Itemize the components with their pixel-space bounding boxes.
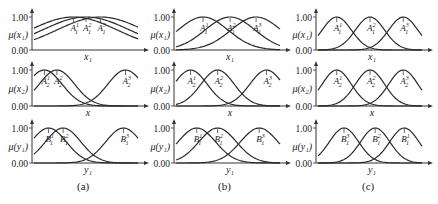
y-axis-arrow-icon — [30, 119, 34, 124]
y-tick-label-max: 1.00 — [11, 124, 28, 134]
y-tick-label-max: 1.00 — [11, 66, 28, 76]
x-axis-label: y₁ — [367, 164, 376, 175]
y-axis-label: μ(x₁) — [149, 29, 170, 41]
y-tick-label-max: 1.00 — [295, 66, 312, 76]
x-axis-label: y₁ — [225, 164, 234, 175]
y-tick-label-min: 0.00 — [11, 46, 28, 56]
curve-label: B21 — [372, 133, 381, 146]
y-axis-arrow-icon — [30, 61, 34, 66]
y-axis-arrow-icon — [314, 8, 318, 13]
curve-label: A12 — [187, 75, 197, 88]
y-axis-label: μ(x₁) — [291, 29, 312, 41]
y-tick-label-max: 1.00 — [153, 66, 170, 76]
curve-label: A11 — [333, 22, 343, 35]
x-axis-arrow-icon — [144, 104, 149, 108]
x-axis-arrow-icon — [286, 48, 291, 52]
curve-label: B31 — [256, 133, 265, 146]
x-axis-arrow-icon — [144, 48, 149, 52]
y-tick-label-max: 1.00 — [295, 124, 312, 134]
x-axis-arrow-icon — [428, 48, 433, 52]
y-axis-label: μ(y₁) — [149, 141, 170, 153]
curve-label: A21 — [82, 22, 92, 35]
y-axis-arrow-icon — [30, 8, 34, 13]
curve-label: B11 — [401, 133, 410, 146]
curve-label: A31 — [97, 22, 107, 35]
x-axis-label: x₁ — [225, 51, 234, 62]
y-tick-label-max: 1.00 — [153, 124, 170, 134]
y-axis-arrow-icon — [172, 61, 176, 66]
membership-curve — [176, 17, 280, 50]
y-tick-label-max: 1.00 — [295, 13, 312, 23]
caption-c: (c) — [362, 180, 374, 192]
x-axis-arrow-icon — [286, 161, 291, 165]
y-tick-label-min: 0.00 — [295, 102, 312, 112]
y-tick-label-min: 0.00 — [295, 159, 312, 169]
y-tick-label-max: 1.00 — [153, 13, 170, 23]
y-tick-label-min: 0.00 — [153, 46, 170, 56]
curve-label: A22 — [214, 75, 224, 88]
curve-label: A32 — [262, 75, 272, 88]
x-axis-arrow-icon — [428, 161, 433, 165]
curve-label: A22 — [53, 75, 63, 88]
y-axis-label: μ(x₂) — [149, 83, 170, 95]
y-axis-arrow-icon — [314, 119, 318, 124]
x-axis-arrow-icon — [144, 161, 149, 165]
y-tick-label-min: 0.00 — [11, 102, 28, 112]
x-axis-label: x — [85, 107, 91, 118]
curve-label: B31 — [120, 133, 129, 146]
y-axis-label: μ(y₁) — [291, 141, 312, 153]
curve-label: A31 — [399, 22, 409, 35]
curve-label: B21 — [215, 133, 224, 146]
y-tick-label-min: 0.00 — [153, 159, 170, 169]
y-axis-label: μ(x₁) — [7, 29, 28, 41]
y-axis-arrow-icon — [172, 119, 176, 124]
curve-label: A21 — [366, 22, 376, 35]
y-axis-label: μ(x₂) — [7, 83, 28, 95]
x-axis-arrow-icon — [428, 104, 433, 108]
curve-label: A32 — [399, 75, 409, 88]
x-axis-label: x₁ — [367, 51, 376, 62]
y-axis-arrow-icon — [172, 8, 176, 13]
y-axis-label: μ(x₂) — [291, 83, 312, 95]
x-axis-label: x — [227, 107, 233, 118]
curve-label: A31 — [252, 22, 262, 35]
y-axis-arrow-icon — [314, 61, 318, 66]
x-axis-label: x₁ — [83, 51, 92, 62]
curve-label: A22 — [366, 75, 376, 88]
y-tick-label-max: 1.00 — [11, 13, 28, 23]
curve-label: B21 — [60, 133, 68, 146]
x-axis-label: y₁ — [83, 164, 92, 175]
y-tick-label-min: 0.00 — [11, 159, 28, 169]
curve-label: A32 — [122, 75, 131, 88]
x-axis-label: x — [369, 107, 375, 118]
membership-curve — [176, 17, 280, 50]
y-axis-label: μ(y₁) — [7, 141, 28, 153]
caption-b: (b) — [218, 180, 231, 192]
x-axis-arrow-icon — [286, 104, 291, 108]
curve-label: B31 — [341, 133, 350, 146]
y-tick-label-min: 0.00 — [295, 46, 312, 56]
membership-function-figure: 1.000.00μ(x₁)x₁A11A21A311.000.00μ(x₂)xA1… — [0, 0, 438, 204]
curve-label: A12 — [333, 75, 343, 88]
caption-a: (a) — [77, 180, 89, 192]
y-tick-label-min: 0.00 — [153, 102, 170, 112]
